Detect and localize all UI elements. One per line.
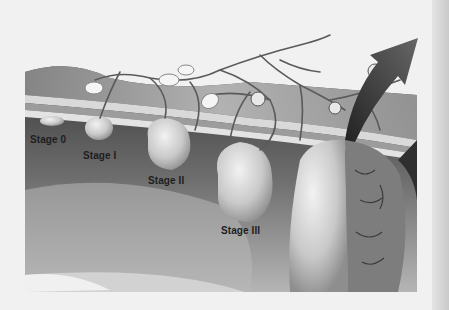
lymph-node xyxy=(159,74,179,86)
cancer-cell xyxy=(251,92,265,106)
stages-illustration xyxy=(0,0,449,310)
cancer-cell xyxy=(329,102,341,114)
tumor-stage-0 xyxy=(40,116,64,126)
label-stage-0: Stage 0 xyxy=(30,134,66,145)
tumor-stage-2 xyxy=(148,118,191,170)
tumor-stage-1 xyxy=(85,116,113,140)
label-stage-1: Stage I xyxy=(83,150,117,161)
label-stage-2: Stage II xyxy=(148,175,184,186)
lymph-node xyxy=(85,82,103,94)
label-stage-3: Stage III xyxy=(221,225,260,236)
tumor-stage-3 xyxy=(217,142,273,222)
lymph-node xyxy=(178,65,194,75)
